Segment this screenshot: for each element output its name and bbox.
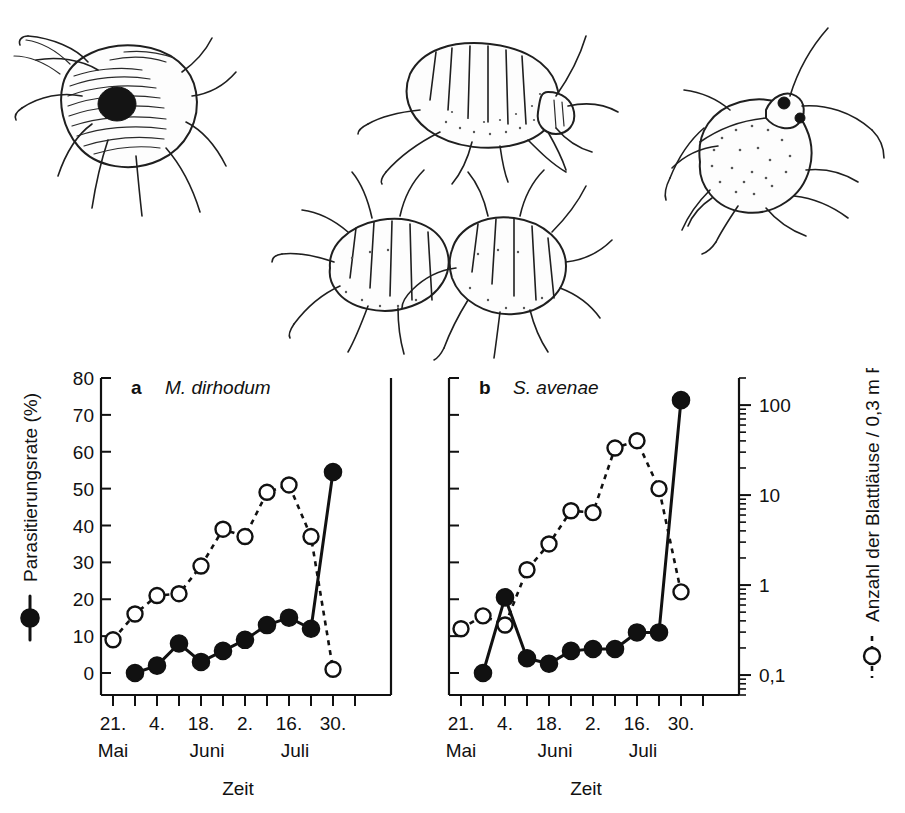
panel-a-series-1-point <box>260 485 275 500</box>
y-tick-label-80: 80 <box>73 368 94 389</box>
panel-a-series-1-point <box>282 477 297 492</box>
right-axis-title: Anzahl der Blattläuse / 0,3 m Reihe <box>862 368 883 622</box>
panel-a-series-1-point <box>150 588 165 603</box>
panel-b-series-0-point <box>497 589 514 606</box>
y-tick-label-60: 60 <box>73 442 94 463</box>
panel-a-series-1-point <box>238 529 253 544</box>
panel-b-series-1-point <box>476 608 491 623</box>
panel-b-series-0-point <box>629 624 646 641</box>
panel-a-series-0-point <box>325 464 342 481</box>
panel-b-series-1-point <box>454 621 469 636</box>
panel-a-series-0-point <box>303 620 320 637</box>
panel-a-x-tick-label-4: 16. <box>276 713 302 734</box>
panel-a-series-0-line <box>135 472 333 673</box>
panel-b-x-tick-label-2: 18. <box>536 713 562 734</box>
panel-b-series-1-point <box>608 441 623 456</box>
y2-tick-label-1: 1 <box>759 575 770 596</box>
panel-b-series-1-point <box>542 536 557 551</box>
y2-tick-label-0,1: 0,1 <box>759 665 785 686</box>
panel-a-series-0-point <box>215 642 232 659</box>
panel-a-series-0-point <box>127 665 144 682</box>
panel-a-x-tick-label-5: 30. <box>320 713 346 734</box>
y-tick-label-20: 20 <box>73 589 94 610</box>
y2-tick-label-10: 10 <box>759 485 780 506</box>
panel-b-species-title: S. avenae <box>513 377 599 398</box>
panel-b-series-1-point <box>586 505 601 520</box>
panel-a-series-1-point <box>106 632 121 647</box>
panel-b-series-0-point <box>519 650 536 667</box>
panel-a-month-label-Mai: Mai <box>98 740 129 761</box>
aphid-illustration-band <box>0 0 905 368</box>
panel-a-series-1-point <box>326 662 341 677</box>
panel-a-x-tick-label-2: 18. <box>188 713 214 734</box>
chart-band: 0102030405060708021.4.18.2.16.30.MaiJuni… <box>0 368 905 813</box>
y-tick-label-40: 40 <box>73 516 94 537</box>
panel-b-series-1-point <box>520 562 535 577</box>
panel-a-series-0-point <box>281 609 298 626</box>
panel-b-series-0-point <box>673 392 690 409</box>
panel-b-x-tick-label-1: 4. <box>497 713 513 734</box>
panel-a-x-tick-label-0: 21. <box>100 713 126 734</box>
panel-b-x-tick-label-3: 2. <box>585 713 601 734</box>
panel-a-series-1-point <box>172 586 187 601</box>
panel-b-x-tick-label-0: 21. <box>448 713 474 734</box>
y-tick-label-0: 0 <box>83 663 94 684</box>
aphid-dorsal-view-icon <box>665 28 884 254</box>
panel-a-series-0-point <box>149 657 166 674</box>
panel-b-series-1-point <box>674 584 689 599</box>
y-tick-label-50: 50 <box>73 479 94 500</box>
right-legend-marker <box>864 648 880 664</box>
aphid-pair-icon <box>272 170 612 360</box>
panel-a-month-label-Juli: Juli <box>281 740 310 761</box>
panel-b-series-1-point <box>652 481 667 496</box>
panel-a-x-axis-title: Zeit <box>222 778 254 799</box>
panel-b-month-label-Mai: Mai <box>446 740 477 761</box>
figure-root: 0102030405060708021.4.18.2.16.30.MaiJuni… <box>0 0 905 813</box>
panel-b-x-tick-label-5: 30. <box>668 713 694 734</box>
panel-a-letter: a <box>131 377 142 398</box>
panel-b-series-0-point <box>651 624 668 641</box>
panel-a-x-tick-label-3: 2. <box>237 713 253 734</box>
panel-b-series-0-point <box>607 641 624 658</box>
panel-b-series-0-point <box>585 641 602 658</box>
panel-b-month-label-Juli: Juli <box>629 740 658 761</box>
panel-b-series-1-point <box>564 503 579 518</box>
panel-b-series-0-point <box>541 655 558 672</box>
left-axis-title: Parasitierungsrate (%) <box>20 393 41 582</box>
panel-b-x-tick-label-4: 16. <box>624 713 650 734</box>
panel-b-series-0-point <box>563 642 580 659</box>
panel-a-species-title: M. dirhodum <box>165 377 271 398</box>
y-tick-label-10: 10 <box>73 626 94 647</box>
panel-a-series-0-point <box>259 617 276 634</box>
panel-b-letter: b <box>479 377 491 398</box>
panel-a-series-0-point <box>171 635 188 652</box>
panel-a-month-label-Juni: Juni <box>190 740 225 761</box>
panel-a-series-0-point <box>193 653 210 670</box>
panel-b-series-0-point <box>475 665 492 682</box>
mummified-aphid-with-exit-hole-icon <box>14 36 236 216</box>
panel-a-series-1-point <box>194 559 209 574</box>
panel-b-month-label-Juni: Juni <box>538 740 573 761</box>
y2-tick-label-100: 100 <box>759 395 791 416</box>
panel-a-series-1-point <box>304 529 319 544</box>
y-tick-label-70: 70 <box>73 405 94 426</box>
panel-a-x-tick-label-1: 4. <box>149 713 165 734</box>
panel-b-series-1-line <box>461 441 681 629</box>
panel-b-series-1-point <box>630 433 645 448</box>
panel-b-x-axis-title: Zeit <box>570 778 602 799</box>
panel-a-series-1-point <box>128 607 143 622</box>
panel-a-series-1-point <box>216 522 231 537</box>
left-legend-marker <box>21 609 39 627</box>
aphid-lateral-view-icon <box>358 36 618 184</box>
panel-b-series-1-point <box>498 618 513 633</box>
panel-a-series-0-point <box>237 631 254 648</box>
y-tick-label-30: 30 <box>73 552 94 573</box>
